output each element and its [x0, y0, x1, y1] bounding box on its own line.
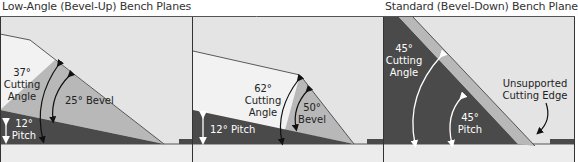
p1-cutting-label-2: Angle — [8, 91, 36, 102]
panel-3: 45° Cutting Angle 45° Pitch Unsupported … — [384, 16, 575, 162]
p3-pitch-label: Pitch — [458, 124, 482, 135]
p3-cutting-label-1: Cutting — [386, 55, 423, 66]
p2-cutting-angle: 62° — [254, 83, 272, 94]
p2-bevel-label: Bevel — [298, 114, 326, 125]
panel-2: 62° Cutting Angle 50° Bevel 12° Pitch — [193, 16, 383, 162]
p1-cutting-angle: 37° — [13, 67, 31, 78]
p1-bevel: 25° Bevel — [65, 95, 114, 106]
p3-cutting-angle: 45° — [395, 43, 413, 54]
p1-pitch-label: Pitch — [12, 130, 36, 141]
p2-pitch: 12° Pitch — [210, 124, 255, 135]
p3-edge-label-2: Cutting Edge — [503, 90, 568, 101]
p2-bevel: 50° — [303, 102, 321, 113]
p2-cutting-label-1: Cutting — [245, 95, 282, 106]
p3-pitch: 45° — [461, 112, 479, 123]
p1-pitch: 12° — [15, 118, 33, 129]
p2-cutting-label-2: Angle — [249, 107, 277, 118]
panel-1: 37° Cutting Angle 25° Bevel 12° Pitch — [0, 16, 192, 162]
p1-cutting-label-1: Cutting — [4, 79, 41, 90]
p3-edge-label-1: Unsupported — [503, 78, 568, 89]
p3-cutting-label-2: Angle — [390, 67, 418, 78]
